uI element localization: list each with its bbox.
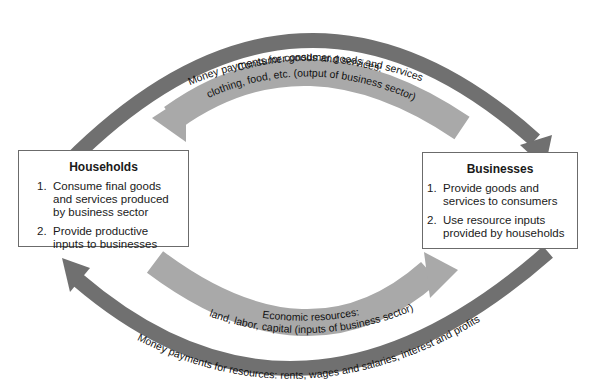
item-text: Provide goods and services to consumers: [443, 182, 557, 207]
households-box: Households 1. Consume final goods and se…: [18, 150, 189, 247]
households-item: 1. Consume final goods and services prod…: [33, 180, 182, 219]
item-number: 1.: [37, 180, 47, 193]
businesses-box: Businesses 1. Provide goods and services…: [422, 152, 578, 249]
households-item: 2. Provide productive inputs to business…: [33, 225, 182, 251]
item-number: 2.: [37, 225, 47, 238]
item-text: Consume final goods and services produce…: [53, 180, 169, 218]
businesses-item: 1. Provide goods and services to consume…: [423, 182, 573, 208]
households-list: 1. Consume final goods and services prod…: [33, 180, 182, 251]
households-title: Households: [19, 161, 188, 174]
item-text: Provide productive inputs to businesses: [53, 225, 157, 250]
businesses-item: 2. Use resource inputs provided by house…: [423, 214, 573, 240]
businesses-list: 1. Provide goods and services to consume…: [423, 182, 573, 240]
arrowhead-icon: [424, 252, 458, 298]
arrowhead-icon: [152, 96, 186, 142]
item-number: 1.: [427, 182, 437, 195]
item-text: Use resource inputs provided by househol…: [443, 214, 564, 239]
item-number: 2.: [427, 214, 437, 227]
businesses-title: Businesses: [423, 163, 577, 176]
